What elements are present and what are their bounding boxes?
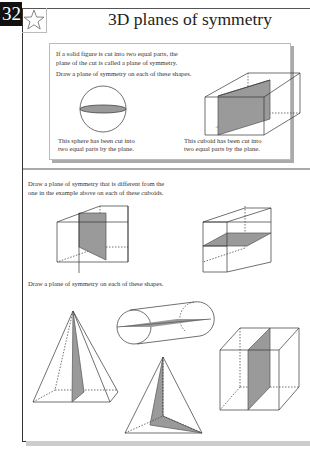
cube: [220, 328, 299, 410]
example-sphere: [80, 86, 126, 132]
square-pyramid: [33, 311, 118, 402]
example-cuboid: [205, 73, 300, 135]
cylinder: [117, 302, 214, 344]
triangular-pyramid: [125, 357, 202, 433]
figures-layer: [0, 0, 310, 456]
exercise-cuboid-1: [57, 206, 128, 273]
exercise-cuboid-2: [203, 206, 271, 272]
